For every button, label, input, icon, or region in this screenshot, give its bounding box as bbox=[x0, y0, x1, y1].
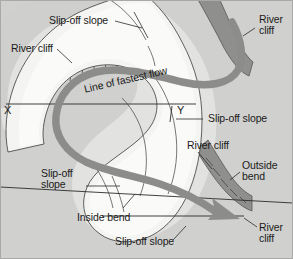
label-point-y: Y bbox=[177, 105, 184, 117]
label-slip-off-slope-top: Slip-off slope bbox=[49, 15, 108, 27]
meander-diagram-figure: Slip-off slope River cliff River cliff L… bbox=[0, 0, 293, 259]
label-river-cliff-bottom-right-line2: cliff bbox=[259, 233, 274, 245]
label-slip-off-slope-bottom: Slip-off slope bbox=[115, 236, 174, 248]
label-river-cliff-left: River cliff bbox=[11, 43, 53, 55]
label-river-cliff-mid-right: River cliff bbox=[187, 140, 229, 152]
label-inside-bend: Inside bend bbox=[77, 212, 130, 224]
label-outside-bend-line2: bend bbox=[242, 171, 265, 183]
label-point-x: X bbox=[4, 105, 11, 117]
label-slip-off-slope-left-line2: slope bbox=[41, 179, 66, 191]
label-slip-off-slope-right: Slip-off slope bbox=[208, 113, 267, 125]
label-river-cliff-top-right-line2: cliff bbox=[259, 25, 274, 37]
diagram-canvas bbox=[0, 0, 293, 259]
